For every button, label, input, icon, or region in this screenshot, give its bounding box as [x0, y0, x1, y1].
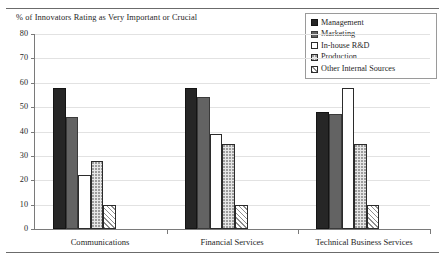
legend-swatch-icon — [311, 19, 318, 26]
x-axis-tick — [298, 229, 299, 234]
bar-1-4[interactable] — [235, 205, 248, 229]
y-axis-label: 0 — [24, 225, 28, 233]
x-axis-category-label: Communications — [71, 238, 130, 247]
bar-1-2[interactable] — [210, 134, 223, 229]
bar-group-bars — [35, 34, 167, 229]
y-axis-label: 70 — [20, 54, 28, 62]
top-divider-rule — [6, 8, 439, 9]
bar-0-4[interactable] — [103, 205, 116, 229]
bar-0-2[interactable] — [78, 175, 91, 229]
bar-2-0[interactable] — [316, 112, 329, 229]
y-axis-label: 50 — [20, 103, 28, 111]
x-axis-category-label: Financial Services — [200, 238, 263, 247]
y-axis-label: 20 — [20, 176, 28, 184]
plot-area: 01020304050607080 — [34, 34, 430, 230]
bar-0-0[interactable] — [53, 88, 66, 229]
bar-2-4[interactable] — [367, 205, 380, 229]
bar-2-2[interactable] — [342, 88, 355, 229]
bar-1-0[interactable] — [185, 88, 198, 229]
bar-group-bars — [298, 34, 430, 229]
y-axis-label: 60 — [20, 79, 28, 87]
bar-1-1[interactable] — [197, 97, 210, 229]
bottom-divider-rule — [6, 252, 439, 253]
bar-1-3[interactable] — [222, 144, 235, 229]
bar-2-1[interactable] — [329, 114, 342, 229]
bar-group-bars — [167, 34, 299, 229]
y-axis-label: 80 — [20, 30, 28, 38]
x-axis-tick — [430, 229, 431, 234]
x-axis-category-label: Technical Business Services — [315, 238, 412, 247]
bar-group-0 — [35, 34, 167, 229]
bar-group-1 — [167, 34, 299, 229]
bar-0-3[interactable] — [91, 161, 104, 229]
y-axis-label: 30 — [20, 152, 28, 160]
y-axis-label: 40 — [20, 127, 28, 135]
legend-item-label: Management — [321, 19, 364, 27]
x-axis-tick — [167, 229, 168, 234]
chart-title: % of Innovators Rating as Very Important… — [16, 13, 197, 22]
bar-2-3[interactable] — [354, 144, 367, 229]
bar-group-2 — [298, 34, 430, 229]
y-axis-label: 10 — [20, 201, 28, 209]
legend-item-0[interactable]: Management — [311, 17, 432, 29]
y-axis-tick — [31, 229, 35, 230]
bar-0-1[interactable] — [66, 117, 79, 229]
